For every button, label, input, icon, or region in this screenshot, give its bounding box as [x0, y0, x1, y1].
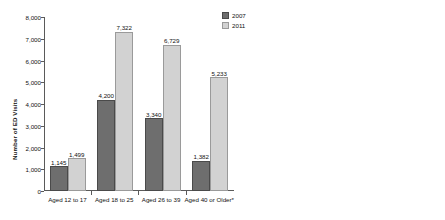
bar-value-label: 1,382 — [194, 153, 209, 160]
chart-by-sex: Number of ED Visits 16,00014,00012,00010… — [285, 0, 445, 220]
bar-value-label: 5,233 — [212, 70, 227, 77]
bar-2007-aged-18-to-25: 4,200 — [97, 100, 115, 191]
legend-left: 20072011 — [222, 12, 246, 31]
legend-swatch-2007 — [222, 12, 229, 19]
bar-groups-left: 1,1451,4994,2007,3223,3406,7291,3825,233 — [44, 17, 234, 191]
bar-value-label: 1,145 — [51, 159, 66, 166]
figure-container: Number of ED Visits 8,0007,0006,0005,000… — [0, 0, 445, 220]
bar-group: 1,3825,233 — [187, 17, 235, 191]
y-tick-mark — [41, 191, 44, 192]
bar-value-label: 1,499 — [69, 151, 84, 158]
chart-by-age-group: Number of ED Visits 8,0007,0006,0005,000… — [0, 0, 285, 220]
bar-2007-aged-12-to-17: 1,145 — [50, 166, 68, 191]
bar-2007-aged-40-or-older-: 1,382 — [192, 161, 210, 191]
x-tick-label: Aged 40 or Older* — [184, 196, 234, 203]
bar-value-label: 7,322 — [117, 24, 132, 31]
category-separator-tick — [91, 191, 92, 195]
bar-value-label: 3,340 — [146, 111, 161, 118]
bar-2011-aged-18-to-25: 7,322 — [115, 32, 133, 191]
x-tick-label: Aged 18 to 25 — [91, 196, 138, 203]
bar-value-label: 6,729 — [164, 37, 179, 44]
bar-2007-aged-26-to-39: 3,340 — [145, 118, 163, 191]
bar-group: 1,1451,499 — [44, 17, 92, 191]
legend-item: 2007 — [222, 12, 246, 19]
bar-value-label: 4,200 — [99, 92, 114, 99]
bar-2011-aged-12-to-17: 1,499 — [68, 158, 86, 191]
x-axis-labels-left: Aged 12 to 17Aged 18 to 25Aged 26 to 39A… — [44, 196, 234, 203]
legend-item: 2011 — [222, 22, 246, 29]
legend-label: 2007 — [232, 12, 246, 19]
x-tick-label: Aged 26 to 39 — [138, 196, 185, 203]
category-separator-tick — [138, 191, 139, 195]
plot-area-left: 8,0007,0006,0005,0004,0003,0002,0001,000… — [44, 17, 234, 191]
legend-label: 2011 — [232, 22, 245, 29]
category-separator-tick — [186, 191, 187, 195]
bar-2011-aged-26-to-39: 6,729 — [163, 45, 181, 191]
legend-swatch-2011 — [222, 22, 229, 29]
bar-group: 3,3406,729 — [139, 17, 187, 191]
bar-group: 4,2007,322 — [92, 17, 140, 191]
x-tick-label: Aged 12 to 17 — [44, 196, 91, 203]
bar-2011-aged-40-or-older-: 5,233 — [210, 77, 228, 191]
y-axis-label-left: Number of ED Visits — [11, 99, 18, 160]
